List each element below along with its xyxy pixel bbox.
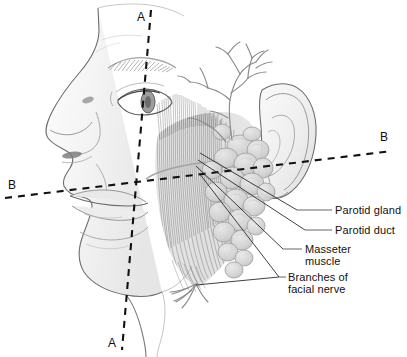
label-parotid-duct: Parotid duct [335, 224, 395, 237]
eyebrow [108, 58, 176, 72]
label-masseter-muscle-line1: Masseter [305, 243, 351, 256]
label-branches-line1: Branches of [288, 271, 348, 284]
anatomical-illustration [0, 0, 407, 357]
label-branches-line2: facial nerve [288, 283, 345, 296]
facial-nerve-branches-lower [170, 284, 208, 308]
jaw-neck [126, 292, 165, 357]
ear [259, 84, 316, 199]
section-marker-b-left: B [8, 178, 16, 192]
figure-canvas: A A B B Parotid gland Parotid duct Masse… [0, 0, 407, 357]
label-parotid-gland: Parotid gland [335, 204, 401, 217]
label-masseter-muscle-line2: muscle [305, 255, 340, 268]
section-marker-b-right: B [380, 130, 388, 144]
section-marker-a-top: A [137, 10, 145, 24]
section-marker-a-bottom: A [108, 336, 116, 350]
